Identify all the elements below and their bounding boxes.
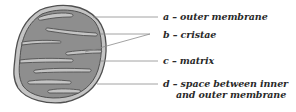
mitochondrion-diagram: a – outer membrane b – cristae c – matri… (0, 0, 296, 112)
label-c-matrix: c – matrix (163, 55, 214, 66)
label-d-intermembrane-space-line2: and outer membrane (176, 89, 286, 100)
label-d-intermembrane-space: d – space between inner (163, 78, 288, 89)
label-b-cristae: b – cristae (163, 29, 216, 40)
label-a-outer-membrane: a – outer membrane (163, 11, 268, 22)
matrix-shape (19, 10, 101, 98)
